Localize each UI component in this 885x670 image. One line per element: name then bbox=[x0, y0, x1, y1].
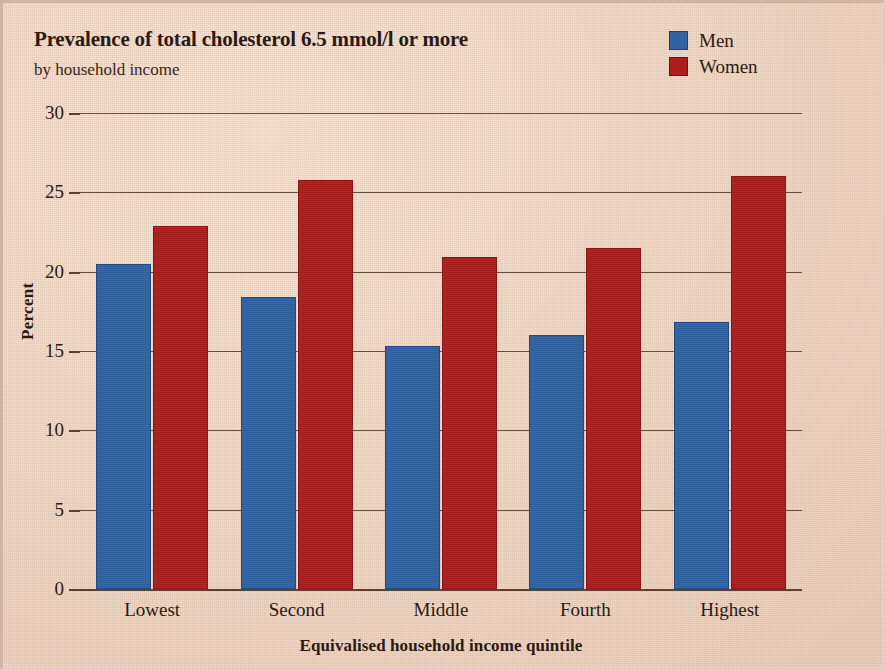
y-axis-tick bbox=[69, 113, 80, 115]
chart-title: Prevalence of total cholesterol 6.5 mmol… bbox=[34, 27, 468, 52]
y-axis-tick-label: 25 bbox=[45, 181, 64, 203]
y-axis-tick bbox=[69, 589, 80, 591]
plot-area: 051015202530LowestSecondMiddleFourthHigh… bbox=[80, 113, 802, 589]
y-axis-tick-label: 20 bbox=[45, 261, 64, 283]
y-axis-tick bbox=[69, 272, 80, 274]
y-axis-tick bbox=[69, 351, 80, 353]
y-axis-tick-label: 30 bbox=[45, 102, 64, 124]
bar-middle-women bbox=[442, 257, 497, 589]
bar-second-men bbox=[241, 297, 296, 589]
y-axis-tick bbox=[69, 192, 80, 194]
x-axis-tick-label: Second bbox=[269, 599, 325, 621]
bar-middle-men bbox=[385, 346, 440, 589]
chart-legend: Men Women bbox=[669, 27, 758, 79]
gridline bbox=[80, 113, 802, 114]
y-axis-tick bbox=[69, 510, 80, 512]
y-axis-tick bbox=[69, 430, 80, 432]
legend-swatch-women bbox=[669, 57, 688, 76]
bar-lowest-women bbox=[153, 226, 208, 589]
chart-subtitle: by household income bbox=[34, 60, 179, 80]
x-axis-label: Equivalised household income quintile bbox=[300, 636, 583, 656]
x-axis-tick-label: Middle bbox=[414, 599, 469, 621]
gridline bbox=[80, 192, 802, 193]
bar-highest-women bbox=[731, 176, 786, 589]
legend-label-women: Women bbox=[699, 57, 758, 76]
x-axis-tick-label: Highest bbox=[700, 599, 759, 621]
bar-lowest-men bbox=[96, 264, 151, 589]
bar-fourth-women bbox=[586, 248, 641, 589]
legend-item-men: Men bbox=[669, 27, 758, 53]
y-axis-tick-label: 15 bbox=[45, 340, 64, 362]
y-axis-tick-label: 0 bbox=[55, 578, 65, 600]
x-axis-line bbox=[80, 589, 802, 591]
legend-swatch-men bbox=[669, 31, 688, 50]
x-axis-tick-label: Fourth bbox=[560, 599, 611, 621]
x-axis-tick-label: Lowest bbox=[124, 599, 180, 621]
y-axis-tick-label: 10 bbox=[45, 419, 64, 441]
legend-item-women: Women bbox=[669, 53, 758, 79]
y-axis-label: Percent bbox=[18, 283, 38, 340]
legend-label-men: Men bbox=[699, 31, 734, 50]
bar-fourth-men bbox=[529, 335, 584, 589]
y-axis-tick-label: 5 bbox=[55, 499, 65, 521]
bar-highest-men bbox=[674, 322, 729, 589]
bar-second-women bbox=[298, 180, 353, 589]
